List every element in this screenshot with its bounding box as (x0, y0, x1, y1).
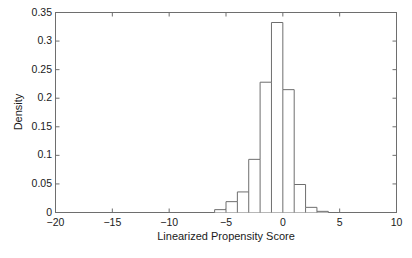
x-tick-label: −5 (206, 217, 246, 228)
histogram-figure: 00.050.10.150.20.250.30.35 −20−15−10−505… (0, 0, 412, 258)
x-tick-label: −15 (92, 217, 132, 228)
plot-border (56, 13, 397, 213)
y-axis-label: Density (12, 12, 26, 212)
x-tick-label: −20 (36, 217, 76, 228)
y-axis-ticks (56, 41, 397, 184)
axes-frame (56, 13, 397, 213)
histogram-bars (215, 23, 329, 213)
x-tick-label: 0 (263, 217, 303, 228)
x-tick-label: −10 (149, 217, 189, 228)
x-axis-ticks (112, 13, 339, 213)
x-axis-label: Linearized Propensity Score (55, 230, 397, 242)
x-tick-label: 10 (377, 217, 412, 228)
x-tick-label: 5 (320, 217, 360, 228)
